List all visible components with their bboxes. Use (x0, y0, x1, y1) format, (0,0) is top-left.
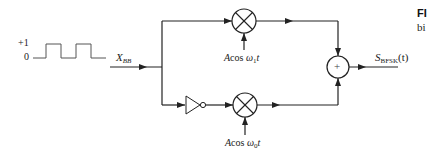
upper-carrier-arrow (241, 33, 247, 50)
adder-symbol: + (334, 61, 340, 72)
output-signal-label: SBFSK(t) (375, 52, 408, 65)
inverter-to-multiplier-line (206, 102, 233, 108)
upper-multiplier-icon (232, 9, 256, 33)
input-signal-label: XBB (116, 52, 131, 65)
upper-carrier-label: Acos ω1t (224, 53, 259, 65)
diagram-canvas (0, 0, 439, 153)
figure-caption-prefix: FI (417, 7, 427, 19)
figure-caption-line2: bi (417, 21, 426, 33)
waveform-low-label: 0 (24, 52, 29, 62)
waveform-high-label: +1 (18, 38, 29, 48)
upper-branch-line (162, 18, 232, 24)
inverter-icon (186, 96, 206, 114)
lower-multiplier-icon (233, 93, 257, 117)
bfsk-diagram: +1 0 XBB Acos ω1t Acos ω0t + SBFSK(t) FI… (0, 0, 439, 153)
lower-branch-line (162, 102, 185, 108)
lower-carrier-arrow (242, 117, 248, 135)
lower-carrier-label: Acos ω0t (225, 138, 260, 150)
square-wave-icon (33, 44, 106, 58)
lower-to-adder-line (257, 78, 341, 108)
upper-to-adder-line (256, 18, 341, 56)
